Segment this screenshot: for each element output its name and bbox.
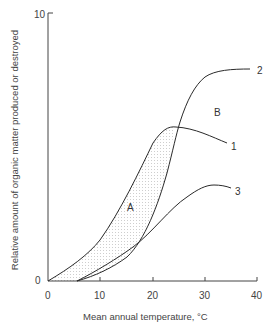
region-a-shading xyxy=(48,127,175,281)
x-tick-label-40: 40 xyxy=(251,290,263,301)
x-tick-label-0: 0 xyxy=(45,290,51,301)
curve-3-label: 3 xyxy=(235,186,241,197)
y-tick-label-10: 10 xyxy=(34,9,46,20)
x-tick-label-10: 10 xyxy=(94,290,106,301)
x-tick-label-20: 20 xyxy=(147,290,159,301)
region-a-label: A xyxy=(127,202,134,213)
chart-canvas: 10 0 0 10 20 30 40 Mean annual temperatu… xyxy=(0,0,270,327)
x-axis-ticks xyxy=(100,277,257,281)
x-axis-title: Mean annual temperature, °C xyxy=(83,311,208,322)
curve-2-label: 2 xyxy=(257,65,263,76)
x-tick-label-30: 30 xyxy=(199,290,211,301)
y-axis-title: Relative amount of organic matter produc… xyxy=(9,30,20,270)
region-b-label: B xyxy=(214,107,221,118)
y-tick-label-0: 0 xyxy=(35,275,41,286)
curve-1-label: 1 xyxy=(231,141,237,152)
